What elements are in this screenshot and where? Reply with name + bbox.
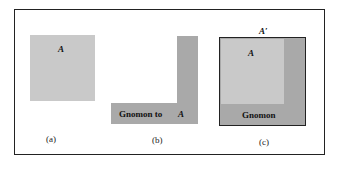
inner-square-a-label: A [248, 48, 254, 58]
gnomon-label: Gnomon [242, 110, 276, 120]
caption-b: (b) [152, 135, 163, 145]
square-a-label: A [58, 44, 64, 54]
gnomon-to-a-label: A [178, 109, 184, 119]
a-prime-label: A′ [259, 26, 268, 36]
caption-c: (c) [259, 137, 269, 147]
caption-a: (a) [46, 134, 56, 144]
gnomon-to-label: Gnomon to [119, 109, 162, 119]
gnomon-vertical-bar [177, 36, 198, 104]
